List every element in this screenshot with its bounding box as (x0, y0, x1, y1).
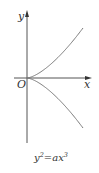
curve-lower-branch (27, 78, 83, 128)
equation-exp-3: 3 (64, 151, 68, 159)
equation-ax: =ax (44, 152, 64, 163)
origin-label: O (17, 78, 26, 91)
diagram-canvas: y O x y2=ax3 (0, 0, 99, 173)
equation-label: y2=ax3 (33, 151, 68, 163)
curve-upper-branch (27, 28, 83, 78)
x-axis-label: x (84, 78, 91, 91)
y-axis-arrow-icon (25, 10, 29, 17)
y-axis-label: y (17, 10, 25, 23)
